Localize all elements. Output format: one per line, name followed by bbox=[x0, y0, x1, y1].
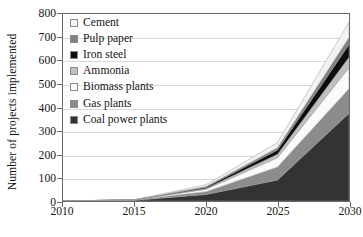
chart-legend: CementPulp paperIron steelAmmoniaBiomass… bbox=[70, 15, 167, 127]
legend-item-pulp-paper[interactable]: Pulp paper bbox=[70, 31, 167, 46]
legend-item-gas-plants[interactable]: Gas plants bbox=[70, 96, 167, 111]
legend-swatch-iron-steel-icon bbox=[70, 51, 78, 59]
x-tick-label-2030: 2030 bbox=[327, 205, 363, 218]
legend-label: Pulp paper bbox=[83, 33, 133, 45]
y-tick-label-100: 100 bbox=[26, 172, 56, 185]
legend-item-iron-steel[interactable]: Iron steel bbox=[70, 47, 167, 62]
legend-label: Gas plants bbox=[83, 98, 132, 110]
y-axis-title: Number of projects implemented bbox=[6, 19, 22, 205]
y-tick-label-500: 500 bbox=[26, 77, 56, 90]
legend-item-biomass-plants[interactable]: Biomass plants bbox=[70, 80, 167, 95]
legend-label: Biomass plants bbox=[83, 81, 154, 93]
stacked-area-chart: Number of projects implemented 010020030… bbox=[0, 0, 363, 237]
y-tick-label-700: 700 bbox=[26, 30, 56, 43]
legend-swatch-coal-icon bbox=[70, 116, 78, 124]
legend-label: Iron steel bbox=[83, 49, 126, 61]
legend-label: Coal power plants bbox=[83, 114, 167, 126]
y-tick-label-600: 600 bbox=[26, 54, 56, 67]
x-tick-mark-2020 bbox=[206, 202, 207, 207]
x-tick-mark-2010 bbox=[62, 202, 63, 207]
y-tick-label-200: 200 bbox=[26, 148, 56, 161]
y-tick-label-400: 400 bbox=[26, 101, 56, 114]
x-tick-mark-2030 bbox=[350, 202, 351, 207]
x-tick-mark-2015 bbox=[134, 202, 135, 207]
legend-item-ammonia[interactable]: Ammonia bbox=[70, 64, 167, 79]
legend-item-coal-power-plants[interactable]: Coal power plants bbox=[70, 112, 167, 127]
legend-item-cement[interactable]: Cement bbox=[70, 15, 167, 30]
legend-swatch-cement-icon bbox=[70, 19, 78, 27]
legend-swatch-pulp-paper-icon bbox=[70, 35, 78, 43]
x-tick-mark-2025 bbox=[278, 202, 279, 207]
y-tick-label-300: 300 bbox=[26, 125, 56, 138]
legend-swatch-biomass-icon bbox=[70, 83, 78, 91]
legend-label: Ammonia bbox=[83, 65, 129, 77]
legend-swatch-ammonia-icon bbox=[70, 67, 78, 75]
y-tick-label-800: 800 bbox=[26, 7, 56, 20]
legend-label: Cement bbox=[83, 17, 119, 29]
legend-swatch-gas-icon bbox=[70, 100, 78, 108]
